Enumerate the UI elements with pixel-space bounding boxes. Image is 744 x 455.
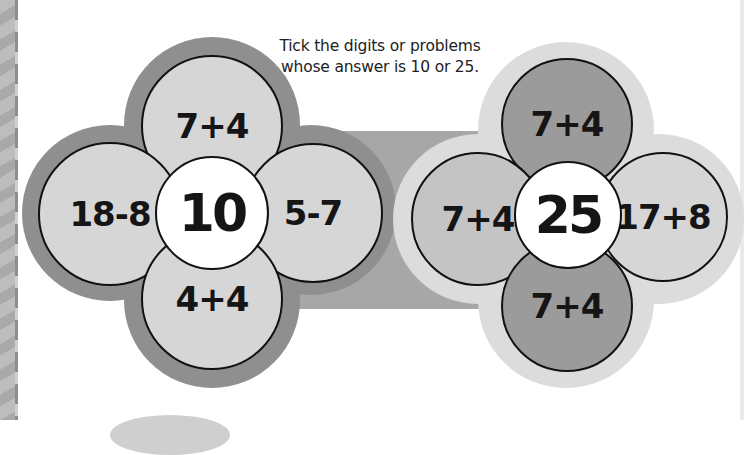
petal-bottom-label: 4+4: [176, 279, 249, 319]
petal-right-label: 5-7: [284, 193, 342, 233]
page-edge-dashes: [15, 0, 18, 420]
center-target[interactable]: 10: [155, 156, 269, 270]
petal-top-label: 7+4: [531, 104, 604, 144]
petal-left-label: 7+4: [442, 199, 515, 239]
center-target-label: 10: [179, 183, 245, 243]
petal-top-label: 7+4: [176, 106, 249, 146]
instruction-line-1: Tick the digits or problems: [240, 36, 520, 57]
next-shape-partial: [110, 415, 230, 455]
petal-right-label: 17+8: [615, 197, 710, 237]
center-target-label: 25: [535, 185, 601, 245]
petal-left-label: 18-8: [69, 194, 150, 234]
center-target[interactable]: 25: [514, 161, 622, 269]
petal-bottom-label: 7+4: [531, 286, 604, 326]
